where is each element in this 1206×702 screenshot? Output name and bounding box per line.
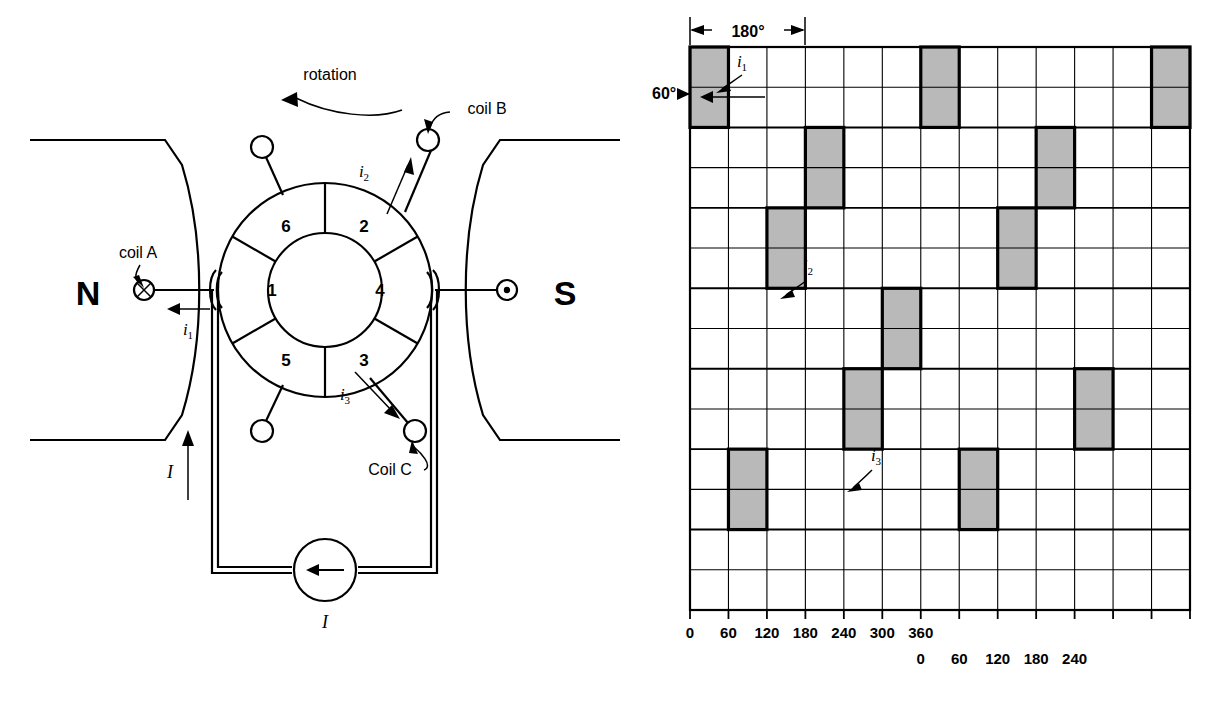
- north-pole-label: N: [76, 274, 101, 312]
- coil-a-label: coil A: [119, 244, 158, 261]
- i1-arrow: [167, 303, 210, 315]
- coil-b-leader: [430, 112, 450, 128]
- figure-root: N S rotation: [0, 0, 1206, 702]
- segment-label-6: 6: [281, 217, 290, 236]
- dimension-180-label: 180°: [731, 23, 764, 40]
- axis-layer: 060120180240300360060120180240: [686, 610, 1190, 667]
- i1-label: i1: [183, 320, 193, 341]
- axis-tick-bottom: 180: [1024, 650, 1049, 667]
- south-pole-label: S: [554, 274, 577, 312]
- axis-tick-top: 60: [720, 624, 737, 641]
- brush-right-lead: [435, 280, 517, 300]
- i2-label: i2: [359, 162, 369, 183]
- segment-label-3: 3: [359, 351, 368, 370]
- armature-ring: [218, 183, 432, 397]
- branch-current-arrow: [182, 430, 194, 500]
- i2-arrow: [387, 157, 414, 214]
- dc-machine-panel: N S rotation: [0, 0, 650, 702]
- coil-lead-bottom-left: [251, 385, 283, 442]
- segment-label-1: 1: [267, 281, 276, 300]
- axis-tick-bottom: 120: [985, 650, 1010, 667]
- rotation-label: rotation: [303, 66, 356, 83]
- axis-tick-top: 0: [686, 624, 694, 641]
- axis-tick-top: 300: [870, 624, 895, 641]
- coil-c-lead: [370, 378, 426, 442]
- coil-lead-top-left: [251, 136, 283, 195]
- grid-layer: [690, 47, 1190, 610]
- timing-grid-panel: 180° 60° i1 i2: [650, 0, 1206, 702]
- axis-tick-bottom: 60: [951, 650, 968, 667]
- segment-label-5: 5: [281, 351, 290, 370]
- coil-b-label: coil B: [467, 100, 506, 117]
- coil-c-label: Coil C: [368, 461, 412, 478]
- axis-tick-bottom: 0: [917, 650, 925, 667]
- current-source: [294, 539, 356, 601]
- axis-tick-bottom: 240: [1062, 650, 1087, 667]
- axis-tick-top: 120: [754, 624, 779, 641]
- dimension-60-label: 60°: [652, 85, 676, 102]
- axis-tick-top: 360: [908, 624, 933, 641]
- segment-label-2: 2: [359, 217, 368, 236]
- branch-current-label: I: [166, 462, 174, 482]
- segment-label-4: 4: [375, 281, 385, 300]
- axis-tick-top: 240: [831, 624, 856, 641]
- axis-tick-top: 180: [793, 624, 818, 641]
- source-current-label: I: [321, 612, 329, 632]
- coil-a-lead: [134, 280, 214, 300]
- rotation-arrow-icon: [281, 92, 402, 115]
